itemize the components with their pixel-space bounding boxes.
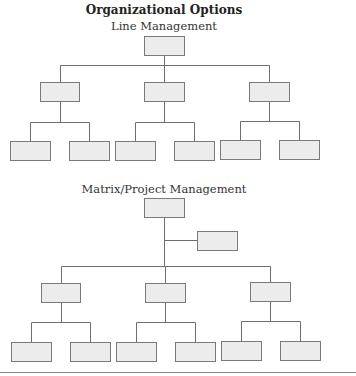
matrix-leaf-box [12,343,52,362]
matrix-leaf-box [176,343,216,362]
line-leaf-box [70,142,110,161]
matrix-manager-box [42,284,81,303]
line-root-box [145,37,185,56]
matrix-leaf-box [117,343,157,362]
matrix-leaf-box [281,342,321,361]
line-leaf-box [11,142,51,161]
matrix-manager-box [251,283,291,302]
bottom-rule [0,372,356,373]
line-leaf-box [175,142,215,161]
line-manager-box [41,83,80,102]
line-manager-box [145,83,185,102]
org-chart-diagram [0,0,356,376]
matrix-leaf-box [222,342,262,361]
matrix-staff-box [198,232,238,251]
matrix-manager-box [146,284,186,303]
line-manager-box [250,83,290,102]
line-leaf-box [116,142,156,161]
matrix-leaf-box [71,343,111,362]
matrix-root-box [145,199,185,218]
line-leaf-box [280,141,320,160]
line-leaf-box [221,141,261,160]
